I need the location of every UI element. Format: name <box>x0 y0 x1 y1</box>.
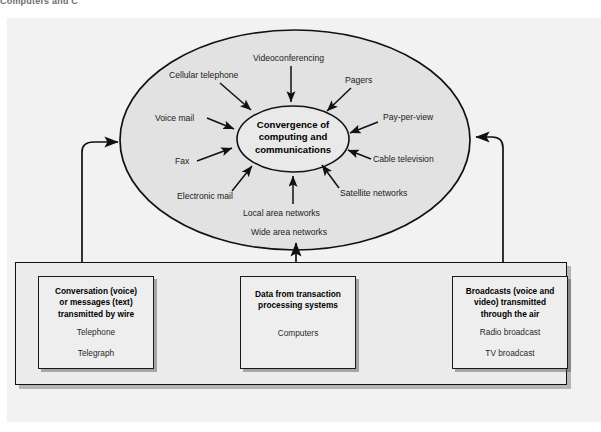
source-box-broadcast-heading-line-2: video) transmitted <box>453 297 567 308</box>
source-box-broadcast-heading-line-1: Broadcasts (voice and <box>453 286 567 297</box>
label-videoconferencing: Videoconferencing <box>253 54 324 63</box>
source-box-wire-heading-line-3: transmitted by wire <box>39 309 153 320</box>
source-box-transaction-heading: Data from transaction processing systems <box>241 289 355 312</box>
source-box-broadcast-item-radio: Radio broadcast <box>453 327 567 337</box>
label-pagers: Pagers <box>345 76 372 85</box>
label-cellular-telephone: Cellular telephone <box>169 71 238 80</box>
label-electronic-mail: Electronic mail <box>177 192 233 201</box>
label-voice-mail: Voice mail <box>155 114 194 123</box>
source-box-broadcast-heading: Broadcasts (voice and video) transmitted… <box>453 286 567 320</box>
figure-convergence-diagram: Computers and C <box>0 0 601 432</box>
label-pay-per-view: Pay-per-view <box>383 113 433 122</box>
source-box-transaction-heading-line-2: processing systems <box>241 300 355 311</box>
core-label: Convergence of computing and communicati… <box>233 119 353 156</box>
label-wide-area-networks: Wide area networks <box>251 228 327 237</box>
source-box-wire: Conversation (voice) or messages (text) … <box>38 276 154 369</box>
source-box-transaction-heading-line-1: Data from transaction <box>241 289 355 300</box>
source-box-transaction: Data from transaction processing systems… <box>240 276 356 369</box>
label-cable-television: Cable television <box>373 155 434 164</box>
source-box-wire-item-telephone: Telephone <box>39 327 153 337</box>
label-satellite-networks: Satellite networks <box>340 189 407 198</box>
core-label-line-1: Convergence of <box>233 119 353 131</box>
source-box-broadcast: Broadcasts (voice and video) transmitted… <box>452 276 568 369</box>
connector-left-feed <box>82 142 118 277</box>
source-box-wire-item-telegraph: Telegraph <box>39 348 153 358</box>
source-box-broadcast-heading-line-3: through the air <box>453 309 567 320</box>
label-fax: Fax <box>175 157 189 166</box>
core-label-line-3: communications <box>233 144 353 156</box>
core-label-line-2: computing and <box>233 131 353 143</box>
source-box-wire-heading-line-2: or messages (text) <box>39 297 153 308</box>
label-local-area-networks: Local area networks <box>243 209 320 218</box>
source-box-broadcast-item-tv: TV broadcast <box>453 348 567 358</box>
connector-right-feed <box>476 137 503 277</box>
source-box-wire-heading: Conversation (voice) or messages (text) … <box>39 286 153 320</box>
source-box-wire-heading-line-1: Conversation (voice) <box>39 286 153 297</box>
source-box-transaction-item-computers: Computers <box>241 328 355 338</box>
